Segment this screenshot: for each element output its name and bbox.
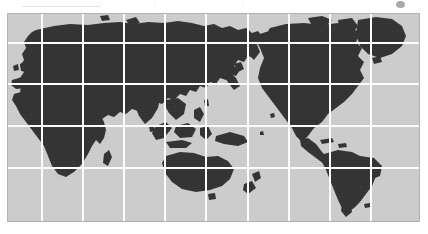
page-root bbox=[0, 0, 428, 234]
toolbar-fragment-7[interactable] bbox=[300, 0, 320, 9]
toolbar-fragment-5[interactable] bbox=[196, 0, 216, 9]
toolbar-separator-icon bbox=[242, 1, 243, 7]
toolbar-fragment-4[interactable] bbox=[158, 0, 178, 9]
browser-toolbar-strip bbox=[0, 0, 428, 11]
map-canvas bbox=[8, 14, 419, 221]
toolbar-badge-icon[interactable] bbox=[396, 1, 405, 8]
toolbar-link-underline bbox=[22, 6, 100, 7]
world-map[interactable] bbox=[7, 13, 420, 222]
toolbar-separator-icon bbox=[154, 1, 155, 7]
toolbar-fragment-6[interactable] bbox=[246, 0, 266, 9]
toolbar-separator-icon bbox=[100, 1, 101, 7]
region-tasmania bbox=[208, 193, 216, 200]
map-vector bbox=[8, 14, 419, 221]
toolbar-fragment-2[interactable] bbox=[104, 0, 124, 9]
toolbar-fragment-3[interactable] bbox=[130, 0, 150, 9]
toolbar-fragment-8[interactable] bbox=[348, 0, 368, 9]
toolbar-fragment-1[interactable] bbox=[4, 0, 30, 9]
